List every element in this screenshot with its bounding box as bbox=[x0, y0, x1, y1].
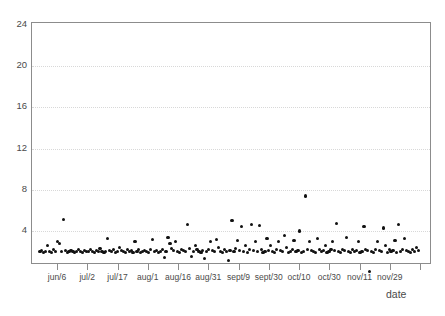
data-point bbox=[263, 250, 266, 253]
data-point bbox=[58, 242, 61, 245]
data-point bbox=[50, 251, 53, 254]
gridline bbox=[32, 66, 430, 67]
data-point bbox=[182, 249, 185, 252]
data-point bbox=[327, 250, 330, 253]
data-point bbox=[42, 251, 45, 254]
data-point bbox=[324, 244, 327, 247]
data-point bbox=[308, 240, 311, 243]
data-point bbox=[52, 248, 55, 251]
data-point bbox=[306, 248, 309, 251]
data-point bbox=[256, 250, 259, 253]
data-point bbox=[277, 240, 280, 243]
data-point bbox=[184, 250, 187, 253]
data-point bbox=[386, 251, 389, 254]
data-point bbox=[151, 238, 154, 241]
data-point bbox=[234, 247, 237, 250]
data-point bbox=[147, 251, 150, 254]
data-point bbox=[133, 240, 136, 243]
data-point bbox=[281, 250, 284, 253]
data-point bbox=[285, 246, 288, 249]
data-point bbox=[223, 248, 226, 251]
data-point bbox=[93, 251, 96, 254]
data-point bbox=[232, 250, 235, 253]
data-point bbox=[157, 251, 160, 254]
data-point bbox=[370, 250, 373, 253]
data-point bbox=[397, 223, 400, 226]
x-tick-label: jun/6 bbox=[48, 272, 66, 283]
data-point bbox=[48, 250, 51, 253]
x-tick-label: aug/1 bbox=[137, 272, 158, 283]
data-point bbox=[145, 250, 148, 253]
data-point bbox=[258, 224, 261, 227]
data-point bbox=[415, 246, 418, 249]
data-point bbox=[67, 250, 70, 253]
data-point bbox=[391, 249, 394, 252]
data-point bbox=[40, 249, 43, 252]
data-point bbox=[143, 249, 146, 252]
data-point bbox=[376, 240, 379, 243]
data-point bbox=[203, 257, 206, 260]
data-point bbox=[409, 251, 412, 254]
data-point bbox=[106, 237, 109, 240]
data-point bbox=[69, 249, 72, 252]
data-point bbox=[248, 248, 251, 251]
gridline bbox=[32, 107, 430, 108]
x-tick-label: jul/2 bbox=[79, 272, 95, 283]
data-point bbox=[401, 248, 404, 251]
data-point bbox=[120, 249, 123, 252]
data-point bbox=[291, 248, 294, 251]
y-tick-label: 24 bbox=[3, 19, 27, 29]
data-point bbox=[60, 250, 63, 253]
data-point bbox=[166, 236, 169, 239]
data-point bbox=[341, 248, 344, 251]
data-point bbox=[118, 246, 121, 249]
data-point bbox=[128, 250, 131, 253]
data-point bbox=[219, 250, 222, 253]
x-tick-label: aug/31 bbox=[195, 272, 221, 283]
x-tick bbox=[329, 264, 330, 270]
data-point bbox=[192, 250, 195, 253]
data-point bbox=[195, 248, 198, 251]
data-point bbox=[170, 247, 173, 250]
data-point bbox=[98, 247, 101, 250]
data-point bbox=[254, 240, 257, 243]
data-point bbox=[122, 250, 125, 253]
data-point bbox=[292, 239, 295, 242]
data-point bbox=[287, 251, 290, 254]
data-point bbox=[104, 250, 107, 253]
x-tick bbox=[148, 264, 149, 270]
data-point bbox=[310, 249, 313, 252]
data-point bbox=[244, 244, 247, 247]
scatter-chart: 4812162024 jun/6jul/2jul/17aug/1aug/16au… bbox=[0, 0, 445, 316]
data-point bbox=[108, 249, 111, 252]
data-point bbox=[296, 249, 299, 252]
data-point bbox=[227, 259, 230, 262]
data-point bbox=[399, 250, 402, 253]
data-point bbox=[331, 240, 334, 243]
data-point bbox=[355, 249, 358, 252]
data-point bbox=[413, 250, 416, 253]
data-point bbox=[38, 250, 41, 253]
y-tick-label: 8 bbox=[3, 184, 27, 194]
data-point bbox=[384, 244, 387, 247]
data-point bbox=[407, 250, 410, 253]
data-point bbox=[417, 249, 420, 252]
data-point bbox=[178, 251, 181, 254]
data-point bbox=[221, 251, 224, 254]
x-tick bbox=[360, 264, 361, 270]
data-point bbox=[314, 251, 317, 254]
x-tick-label: sept/30 bbox=[255, 272, 283, 283]
x-tick bbox=[390, 264, 391, 270]
data-point bbox=[325, 251, 328, 254]
x-tick-label: nov/11 bbox=[347, 272, 372, 283]
data-point bbox=[66, 251, 69, 254]
data-point bbox=[205, 250, 208, 253]
x-tick bbox=[239, 264, 240, 270]
data-point bbox=[54, 250, 57, 253]
data-point bbox=[213, 250, 216, 253]
data-point bbox=[83, 249, 86, 252]
y-tick-label: 12 bbox=[3, 143, 27, 153]
x-tick-label: sept/9 bbox=[227, 272, 250, 283]
x-tick bbox=[299, 264, 300, 270]
data-point bbox=[168, 242, 171, 245]
